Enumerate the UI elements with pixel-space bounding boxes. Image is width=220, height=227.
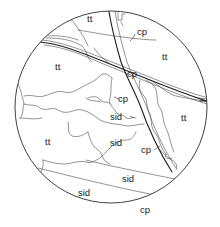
label-tt-5: tt (45, 136, 51, 147)
label-sid-1: sid (110, 111, 122, 122)
label-sid-2: sid (110, 137, 122, 148)
label-cp-3: cp (118, 93, 128, 104)
label-tt-4: tt (181, 112, 187, 123)
thin-section-figure: tt tt tt tt tt cp cp cp cp cp sid sid si… (0, 0, 220, 227)
mineral-map-svg: tt tt tt tt tt cp cp cp cp cp sid sid si… (0, 0, 220, 227)
label-cp-1: cp (137, 26, 147, 37)
label-cp-5: cp (140, 204, 150, 215)
map-linework (16, 6, 212, 206)
field-of-view-circle (15, 11, 207, 203)
tt-sid-boundaries (16, 74, 144, 176)
fractures-upper (70, 18, 156, 64)
label-sid-4: sid (78, 187, 90, 198)
label-cp-4: cp (141, 144, 151, 155)
label-sid-3: sid (122, 173, 134, 184)
label-tt-1: tt (87, 13, 93, 24)
label-cp-2: cp (127, 68, 137, 79)
label-tt-2: tt (55, 61, 61, 72)
sid-bands-lower (38, 160, 198, 206)
label-tt-3: tt (162, 51, 168, 62)
